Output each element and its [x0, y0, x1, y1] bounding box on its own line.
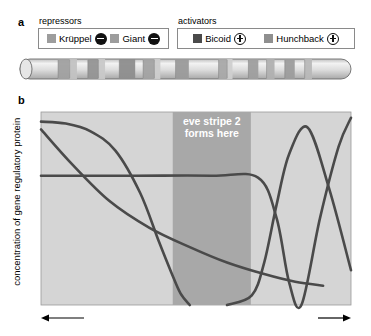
giant-label: Giant: [122, 34, 145, 44]
hunchback-color-swatch: [264, 34, 273, 43]
embryo-diagram: [12, 57, 359, 81]
embryo-stripe: [98, 59, 105, 79]
bicoid-label: Bicoid: [205, 34, 231, 44]
embryo-stripe: [248, 59, 258, 79]
legend-entry-giant: Giant: [110, 33, 160, 45]
stripe-annotation-line2: forms here: [185, 127, 239, 139]
embryo-stripe: [305, 59, 312, 79]
stripe-annotation-line1: eve stripe 2: [183, 115, 241, 127]
concentration-plot: eve stripe 2 forms here: [0, 92, 371, 336]
repressors-group-title: repressors: [39, 17, 82, 26]
embryo-stripe: [176, 59, 189, 79]
anterior-arrow-head: [41, 315, 49, 322]
activator-plus-icon: [234, 33, 246, 45]
embryo-stripe: [227, 59, 232, 79]
axis-arrow-group: [41, 315, 351, 322]
embryo-stripe: [58, 59, 70, 79]
activator-plus-icon: [327, 33, 339, 45]
kruppel-label: Krüppel: [59, 34, 92, 44]
repressor-minus-icon: [95, 33, 107, 45]
activators-legend-box: Bicoid Hunchback: [177, 28, 355, 49]
legend-entry-hunchback: Hunchback: [264, 33, 339, 45]
legend-entry-kruppel: Krüppel: [47, 33, 107, 45]
embryo-stripe: [154, 59, 160, 79]
posterior-arrow-head: [343, 315, 351, 322]
legend-entry-bicoid: Bicoid: [193, 33, 246, 45]
repressors-legend-box: Krüppel Giant: [38, 28, 169, 49]
embryo-stripe: [267, 59, 275, 79]
repressor-minus-icon: [148, 33, 160, 45]
embryo-stripe: [70, 59, 77, 79]
panel-a-letter: a: [18, 17, 24, 28]
embryo-stripe: [88, 59, 99, 79]
hunchback-label: Hunchback: [276, 34, 324, 44]
activators-group-title: activators: [178, 17, 217, 26]
kruppel-color-swatch: [47, 34, 56, 43]
embryo-stripe: [119, 59, 135, 79]
bicoid-color-swatch: [193, 34, 202, 43]
eve-stripe-band: [173, 112, 251, 305]
giant-color-swatch: [110, 34, 119, 43]
embryo-stripe: [219, 59, 228, 79]
chart-container: concentration of gene regulatory protein…: [0, 92, 371, 336]
embryo-stripe: [143, 59, 154, 79]
embryo-stripe: [285, 59, 295, 79]
embryo-stripe-group: [58, 59, 312, 79]
